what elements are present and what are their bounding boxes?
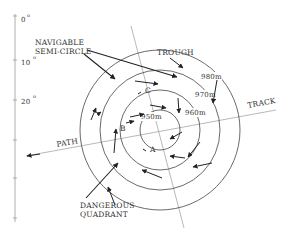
navigable-pointer-2 (84, 54, 115, 79)
dangerous-label-2: QUADRANT (80, 210, 128, 219)
isobar-960 (120, 90, 200, 170)
isobar-label-960: 960m (185, 109, 206, 117)
dangerous-pointer (86, 163, 118, 198)
isobar-label-970: 970m (195, 91, 216, 99)
wind-arrow (170, 156, 185, 158)
scale-label-0: 0 (21, 16, 26, 24)
point-b-label: B (120, 124, 126, 133)
svg-text:o: o (27, 12, 30, 18)
wind-arrow (178, 98, 179, 113)
pointer-arrows (84, 50, 177, 198)
navigable-label-1: NAVIGABLE (35, 38, 84, 47)
wind-arrow (114, 129, 116, 153)
wind-arrow (91, 108, 96, 120)
svg-text:o: o (33, 93, 36, 99)
point-c-label: C (145, 86, 151, 95)
wind-arrow (126, 121, 134, 123)
navigable-label-2: SEMI-CIRCLE (35, 47, 92, 56)
isobar-970 (100, 70, 220, 190)
wind-arrow (135, 81, 158, 84)
point-a-label: A (149, 145, 156, 154)
wind-arrow (170, 58, 183, 68)
latitude-scale: 0 o 10 o 20 o (13, 12, 36, 222)
wind-arrow (98, 112, 101, 114)
cyclone-diagram: 0 o 10 o 20 o 950m 960m 970m 980m (0, 0, 288, 234)
trough-label: TROUGH (157, 48, 194, 57)
track-label: TRACK (247, 96, 277, 110)
wind-arrows (91, 58, 217, 205)
isobar-label-950: 950m (141, 113, 162, 121)
scale-label-20: 20 (21, 98, 30, 106)
dangerous-label-1: DANGEROUS (80, 201, 135, 210)
wind-arrow (188, 142, 200, 157)
scale-label-10: 10 (21, 59, 30, 67)
wind-arrow (142, 170, 162, 178)
wind-arrow (170, 132, 182, 139)
isobar-label-980: 980m (201, 73, 222, 81)
